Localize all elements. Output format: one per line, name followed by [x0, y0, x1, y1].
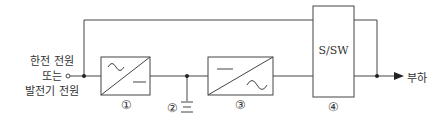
source-label-line1: 한전 전원 [22, 54, 82, 69]
junction-dot [375, 74, 379, 78]
block-number-3: ③ [230, 98, 250, 112]
block-number-2: ② [162, 101, 182, 115]
block-number-4: ④ [323, 100, 343, 114]
junction-dot [82, 74, 86, 78]
ac-wave-icon [108, 64, 124, 71]
load-label: 부하 [407, 69, 427, 85]
source-label-line2: 또는 [22, 69, 82, 84]
static-switch-label: S/SW [313, 44, 354, 57]
block-number-1: ① [116, 98, 136, 112]
junction-dot [185, 74, 189, 78]
source-label-line3: 발전기 전원 [22, 84, 82, 99]
source-label: 한전 전원 또는 발전기 전원 [22, 54, 82, 99]
arrow-right-icon [394, 72, 404, 80]
ac-wave-icon [247, 81, 267, 90]
